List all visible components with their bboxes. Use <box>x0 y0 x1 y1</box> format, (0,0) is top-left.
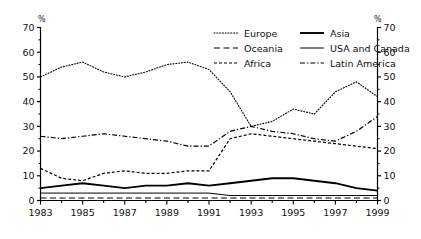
x-tick-label: 1995 <box>281 207 305 218</box>
x-tick-label: 1987 <box>113 207 137 218</box>
legend-label-oceania: Oceania <box>244 43 283 54</box>
y-tick-label-right: 70 <box>384 22 396 33</box>
legend-label-asia: Asia <box>330 28 350 39</box>
y-tick-label-left: 20 <box>22 145 34 156</box>
legend-label-europe: Europe <box>244 28 278 39</box>
y-tick-label-right: 20 <box>384 145 396 156</box>
legend-label-africa: Africa <box>244 58 271 69</box>
y-tick-label-left: 0 <box>28 195 34 206</box>
y-tick-label-right: 30 <box>384 121 396 132</box>
y-tick-label-right: 40 <box>384 96 396 107</box>
y-axis-unit-right: % <box>374 15 382 24</box>
x-axis-ticks: 198319851987198919911993199519971999 <box>28 201 389 218</box>
legend-label-usa-and-canada: USA and Canada <box>330 43 410 54</box>
x-tick-label: 1985 <box>71 207 95 218</box>
chart-background <box>0 0 421 239</box>
y-tick-label-left: 60 <box>22 47 34 58</box>
x-tick-label: 1993 <box>239 207 263 218</box>
chart-canvas: % % 010203040506070 010203040506070 1983… <box>0 0 421 239</box>
x-tick-label: 1997 <box>323 207 347 218</box>
x-tick-label: 1983 <box>28 207 52 218</box>
legend-label-latin-america: Latin America <box>330 58 396 69</box>
y-tick-label-left: 50 <box>22 71 34 82</box>
y-axis-unit-left: % <box>38 15 46 24</box>
x-tick-label: 1999 <box>365 207 389 218</box>
y-tick-label-left: 10 <box>22 170 34 181</box>
x-tick-label: 1989 <box>155 207 179 218</box>
y-tick-label-left: 40 <box>22 96 34 107</box>
y-tick-label-right: 10 <box>384 170 396 181</box>
line-chart: % % 010203040506070 010203040506070 1983… <box>0 0 421 239</box>
x-tick-label: 1991 <box>197 207 221 218</box>
y-tick-label-left: 30 <box>22 121 34 132</box>
y-tick-label-right: 0 <box>384 195 390 206</box>
y-tick-label-right: 50 <box>384 71 396 82</box>
y-tick-label-left: 70 <box>22 22 34 33</box>
